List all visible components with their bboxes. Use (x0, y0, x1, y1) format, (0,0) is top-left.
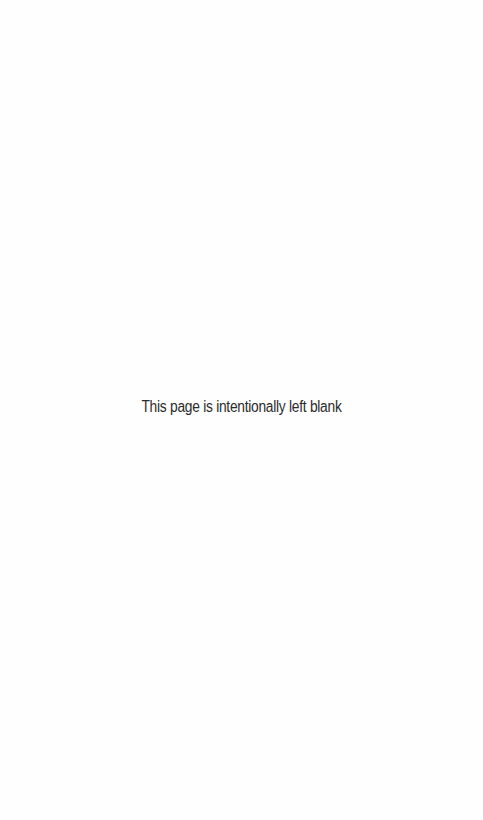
blank-page: This page is intentionally left blank (0, 0, 483, 820)
intentionally-blank-notice: This page is intentionally left blank (34, 397, 449, 417)
